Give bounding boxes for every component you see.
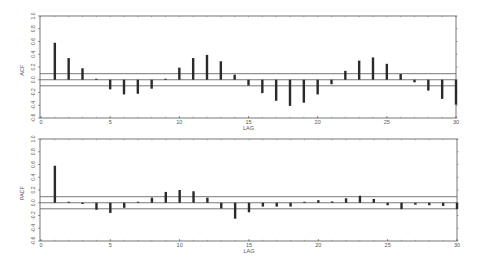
y-tick-label: 0.8 [30, 25, 36, 32]
y-tick-label: 0.4 [30, 174, 36, 181]
correlation-bar [345, 198, 347, 202]
correlation-bar [261, 80, 263, 93]
correlation-bar [275, 80, 277, 101]
correlation-bar [399, 74, 401, 80]
correlation-bar [68, 202, 70, 203]
correlation-bar [330, 80, 332, 84]
correlation-bar [247, 80, 249, 86]
y-tick-label: 0.6 [30, 38, 36, 45]
correlation-bar [386, 64, 388, 80]
correlation-bar [455, 80, 457, 105]
correlation-bar [123, 80, 125, 95]
correlation-bar [359, 196, 361, 203]
x-tick-label: 5 [109, 242, 112, 248]
y-tick-label: -0.6 [30, 113, 36, 122]
correlation-bar [400, 203, 402, 209]
correlation-bar [358, 61, 360, 80]
correlation-bar [317, 200, 319, 203]
correlation-bar [262, 203, 264, 207]
correlation-bar [233, 75, 235, 80]
correlation-bar [206, 198, 208, 203]
y-tick-label: 0.2 [30, 63, 36, 70]
x-tick-label: 20 [315, 242, 321, 248]
x-tick-label: 0 [39, 242, 42, 248]
correlation-bar [67, 58, 69, 80]
correlation-bar [81, 68, 83, 79]
y-axis-label: ACF [19, 64, 25, 76]
x-tick-label: 30 [453, 119, 459, 125]
pacf-panel: 1.00.80.60.40.20.0-0.2-0.4-0.60510152025… [19, 135, 460, 254]
y-tick-label: 0.6 [30, 161, 36, 168]
x-tick-label: 30 [454, 242, 460, 248]
correlation-bar [123, 203, 125, 208]
correlation-bar [95, 79, 97, 80]
correlation-bar [192, 191, 194, 202]
correlation-bar [316, 80, 318, 95]
y-tick-label: 0.0 [30, 199, 36, 206]
y-tick-label: 1.0 [30, 12, 36, 19]
y-tick-label: 0.0 [30, 76, 36, 83]
acf-pacf-figure: 1.00.80.60.40.20.0-0.2-0.4-0.60510152025… [0, 0, 482, 266]
x-tick-label: 0 [39, 119, 42, 125]
x-tick-label: 5 [109, 119, 112, 125]
acf-panel: 1.00.80.60.40.20.0-0.2-0.4-0.60510152025… [19, 12, 459, 131]
correlation-bar [413, 80, 415, 83]
y-tick-label: -0.2 [30, 211, 36, 220]
plot-frame [40, 16, 456, 118]
plot-frame [40, 139, 457, 241]
correlation-bar [165, 192, 167, 203]
x-tick-label: 10 [176, 119, 182, 125]
y-tick-label: -0.2 [30, 88, 36, 97]
y-axis-label: PACF [19, 185, 25, 200]
correlation-bar [386, 203, 388, 206]
y-tick-label: -0.6 [30, 236, 36, 245]
y-tick-label: -0.4 [30, 101, 36, 110]
y-tick-label: -0.4 [30, 224, 36, 233]
x-axis-label: LAG [243, 248, 254, 254]
correlation-bar [206, 55, 208, 80]
y-tick-label: 0.2 [30, 186, 36, 193]
correlation-bar [303, 80, 305, 103]
y-tick-label: 0.4 [30, 51, 36, 58]
correlation-bar [442, 203, 444, 206]
correlation-bar [81, 203, 83, 204]
correlation-bar [441, 80, 443, 99]
correlation-bar [428, 203, 430, 206]
correlation-bar [109, 203, 111, 213]
correlation-bar [95, 203, 97, 210]
x-tick-label: 20 [315, 119, 321, 125]
correlation-bar [344, 71, 346, 80]
correlation-bar [234, 203, 236, 219]
correlation-bar [456, 203, 458, 209]
correlation-bar [54, 43, 56, 80]
correlation-bar [192, 58, 194, 80]
correlation-bar [276, 203, 278, 207]
x-tick-label: 25 [384, 119, 390, 125]
correlation-bar [164, 79, 166, 80]
correlation-bar [137, 202, 139, 203]
correlation-bar [331, 201, 333, 202]
correlation-bar [414, 203, 416, 205]
x-axis-label: LAG [243, 125, 254, 131]
correlation-bar [372, 57, 374, 79]
correlation-bar [151, 198, 153, 203]
correlation-bar [178, 190, 180, 203]
correlation-bar [150, 80, 152, 89]
correlation-bar [178, 68, 180, 80]
correlation-bar [248, 203, 250, 213]
correlation-bar [427, 80, 429, 91]
y-tick-label: 1.0 [30, 135, 36, 142]
correlation-bar [289, 203, 291, 207]
correlation-bar [54, 166, 56, 203]
y-tick-label: 0.8 [30, 148, 36, 155]
correlation-bar [289, 80, 291, 106]
correlation-bar [109, 80, 111, 90]
x-tick-label: 10 [177, 242, 183, 248]
correlation-bar [373, 199, 375, 203]
correlation-bar [137, 80, 139, 94]
correlation-bar [220, 203, 222, 209]
correlation-bar [303, 202, 305, 203]
x-tick-label: 25 [385, 242, 391, 248]
correlation-bar [220, 61, 222, 79]
